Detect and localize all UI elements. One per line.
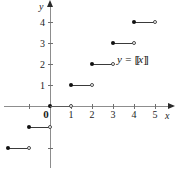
x-tick-label-4: 4: [127, 109, 141, 120]
step-segment-4: [134, 22, 155, 23]
equation-equals-symbol: =: [125, 53, 132, 65]
y-tick-1: [48, 85, 53, 86]
step-filled-endpoint-neg1: [27, 125, 31, 129]
x-tick-label-2: 2: [85, 109, 99, 120]
step-open-endpoint-4: [153, 20, 157, 24]
y-tick-label-2: 2: [31, 59, 45, 70]
origin-label: 0: [40, 108, 52, 120]
y-tick-neg2: [48, 148, 53, 149]
step-segment-1: [71, 85, 92, 86]
step-open-endpoint-1: [90, 83, 94, 87]
y-tick-3: [48, 43, 53, 44]
x-tick-neg1: [29, 104, 30, 109]
step-open-endpoint-2: [111, 62, 115, 66]
x-tick-label-3: 3: [106, 109, 120, 120]
y-tick-4: [48, 22, 53, 23]
equation-close-bracket: ]]: [143, 53, 146, 65]
step-filled-endpoint-2: [90, 62, 94, 66]
step-filled-endpoint-1: [69, 83, 73, 87]
y-axis-arrowhead-icon: [47, 0, 53, 7]
step-open-endpoint-0: [69, 104, 73, 108]
step-segment-neg2: [8, 148, 29, 149]
step-filled-endpoint-3: [111, 41, 115, 45]
step-filled-endpoint-4: [132, 20, 136, 24]
y-tick-2: [48, 64, 53, 65]
x-tick-label-1: 1: [64, 109, 78, 120]
x-tick-label-5: 5: [148, 109, 162, 120]
x-axis-arrowhead-icon: [168, 103, 175, 109]
equation-y-symbol: y: [117, 53, 122, 65]
step-function-graph: y x 0 1 2 3 4 5 1 2 3 4 y: [0, 0, 176, 174]
y-tick-label-1: 1: [31, 80, 45, 91]
step-open-endpoint-neg2: [27, 146, 31, 150]
y-tick-label-3: 3: [31, 38, 45, 49]
y-axis-line: [50, 4, 51, 168]
equation-label: y = [[x]]: [117, 53, 147, 65]
step-filled-endpoint-neg2: [6, 146, 10, 150]
y-axis-label: y: [39, 1, 43, 12]
step-segment-3: [113, 43, 134, 44]
step-segment-neg1: [29, 127, 50, 128]
y-tick-label-4: 4: [31, 17, 45, 28]
step-segment-2: [92, 64, 113, 65]
step-open-endpoint-3: [132, 41, 136, 45]
step-segment-0: [50, 106, 71, 107]
x-axis-label: x: [165, 110, 169, 121]
step-open-endpoint-neg1: [48, 125, 52, 129]
